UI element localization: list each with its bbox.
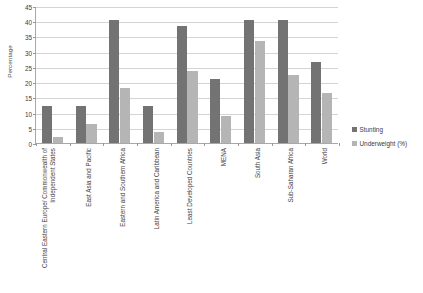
y-axis-tick-label: 0	[28, 141, 32, 148]
y-axis-tick-label: 5	[28, 125, 32, 132]
bar-group	[272, 7, 306, 143]
bar-group	[305, 7, 339, 143]
bar-underweight	[221, 116, 231, 143]
legend-item[interactable]: Underweight (%)	[352, 140, 423, 147]
bar-group	[137, 7, 171, 143]
bar-underweight	[120, 88, 130, 143]
bar-stunting	[109, 20, 119, 143]
bar-group	[103, 7, 137, 143]
x-axis-label: Eastern and Southern Africa	[119, 148, 127, 227]
legend-item[interactable]: Stunting	[352, 126, 423, 133]
x-axis-label: Latin America and Caribbean	[153, 148, 161, 229]
x-label-slot: Central Eastern Europe/ Commonwealth of …	[35, 146, 69, 286]
bar-stunting	[210, 79, 220, 143]
legend-label: Underweight (%)	[360, 140, 408, 147]
y-axis-tick-labels: 051015202530354045	[12, 0, 34, 150]
y-axis-tick-label: 30	[25, 49, 32, 56]
bar-stunting	[143, 106, 153, 143]
bar-stunting	[42, 106, 52, 143]
bar-group	[238, 7, 272, 143]
bar-underweight	[53, 137, 63, 143]
x-label-slot: South Asia	[237, 146, 271, 286]
x-label-slot: East Asia and Pacific	[69, 146, 103, 286]
bar-group	[204, 7, 238, 143]
y-axis-tick-label: 40	[25, 19, 32, 26]
y-axis-tick-label: 35	[25, 34, 32, 41]
x-label-slot: MENA	[203, 146, 237, 286]
legend-swatch-icon	[352, 127, 357, 132]
bar-stunting	[311, 62, 321, 143]
x-axis-label: World	[321, 148, 329, 164]
bar-group	[171, 7, 205, 143]
bar-underweight	[322, 93, 332, 143]
bar-group	[36, 7, 70, 143]
x-label-slot: Sub-Saharan Africa	[271, 146, 305, 286]
x-axis-label: MENA	[220, 148, 228, 166]
bar-underweight	[86, 124, 96, 143]
y-axis-tick-label: 45	[25, 4, 32, 11]
x-axis-label: East Asia and Pacific	[85, 148, 93, 207]
y-axis-tick-label: 20	[25, 80, 32, 87]
x-label-slot: Eastern and Southern Africa	[102, 146, 136, 286]
bar-underweight	[154, 132, 164, 143]
bar-underweight	[255, 41, 265, 143]
x-axis-label: South Asia	[254, 148, 262, 178]
plot-area	[35, 7, 338, 144]
x-axis-tickmark	[339, 143, 340, 146]
x-label-slot: World	[304, 146, 338, 286]
chart-legend: StuntingUnderweight (%)	[352, 126, 423, 154]
y-axis-tick-label: 10	[25, 110, 32, 117]
bar-stunting	[278, 20, 288, 143]
bar-underweight	[187, 71, 197, 143]
legend-label: Stunting	[360, 126, 383, 133]
x-axis-label: Sub-Saharan Africa	[287, 148, 295, 203]
x-label-slot: Least Developed Countries	[170, 146, 204, 286]
legend-swatch-icon	[352, 141, 357, 146]
x-axis-label: Central Eastern Europe/ Commonwealth of …	[41, 148, 56, 280]
y-axis-tick-label: 25	[25, 64, 32, 71]
bar-stunting	[177, 26, 187, 143]
y-axis-tick-label: 15	[25, 95, 32, 102]
bar-group	[70, 7, 104, 143]
x-axis-label: Least Developed Countries	[186, 148, 194, 224]
bar-stunting	[244, 20, 254, 143]
bar-underweight	[288, 75, 298, 143]
bar-stunting	[76, 106, 86, 143]
x-axis-category-labels: Central Eastern Europe/ Commonwealth of …	[35, 146, 338, 286]
x-label-slot: Latin America and Caribbean	[136, 146, 170, 286]
bar-chart: Percentage 051015202530354045 Central Ea…	[0, 0, 423, 293]
